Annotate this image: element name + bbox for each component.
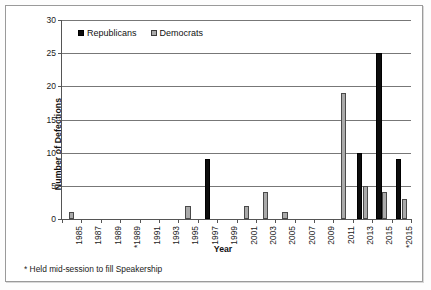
bar-democrats bbox=[263, 192, 268, 219]
chart-footnote: * Held mid-session to fill Speakership bbox=[24, 264, 162, 274]
x-axis-tick bbox=[237, 219, 238, 223]
x-axis-tick bbox=[353, 219, 354, 223]
x-axis-tick-label: 2007 bbox=[308, 226, 316, 245]
x-axis-tick-label: 2009 bbox=[327, 226, 335, 245]
x-axis-tick bbox=[295, 219, 296, 223]
gridline bbox=[62, 20, 411, 21]
y-axis-tick-label: 10 bbox=[47, 148, 56, 157]
x-axis-tick-label: 1987 bbox=[94, 226, 102, 245]
x-axis-tick bbox=[411, 219, 412, 223]
gridline bbox=[62, 86, 411, 87]
x-axis-tick bbox=[217, 219, 218, 223]
bar-democrats bbox=[402, 199, 407, 219]
bar-democrats bbox=[282, 212, 287, 219]
y-axis-tick bbox=[58, 153, 62, 154]
bar-democrats bbox=[244, 206, 249, 219]
x-axis-tick bbox=[140, 219, 141, 223]
gridline bbox=[62, 120, 411, 121]
y-axis-tick-label: 30 bbox=[47, 16, 56, 25]
x-axis-tick-label: 1989 bbox=[114, 226, 122, 245]
x-axis-tick-label: 1995 bbox=[191, 226, 199, 245]
bar-republicans bbox=[205, 159, 210, 219]
x-axis-tick bbox=[62, 219, 63, 223]
x-axis-tick bbox=[198, 219, 199, 223]
bar-republicans bbox=[376, 53, 381, 219]
x-axis-tick bbox=[256, 219, 257, 223]
x-axis-tick-label: 1997 bbox=[211, 226, 219, 245]
x-axis-tick bbox=[178, 219, 179, 223]
x-axis-tick-label: 1991 bbox=[153, 226, 161, 245]
x-axis-tick-label: 2005 bbox=[288, 226, 296, 245]
x-axis-tick bbox=[372, 219, 373, 223]
x-axis-title: Year bbox=[6, 244, 422, 254]
y-axis-tick bbox=[58, 20, 62, 21]
x-axis-tick bbox=[81, 219, 82, 223]
x-axis-tick-label: 2013 bbox=[366, 226, 374, 245]
x-axis-tick-label: 1985 bbox=[75, 226, 83, 245]
x-axis-tick-label: 1993 bbox=[172, 226, 180, 245]
y-axis-tick-label: 25 bbox=[47, 49, 56, 58]
x-axis-tick bbox=[275, 219, 276, 223]
chart-page: Number of Defections Republicans Democra… bbox=[0, 0, 431, 290]
y-axis-tick bbox=[58, 120, 62, 121]
x-axis-tick-label: 2001 bbox=[250, 226, 258, 245]
y-axis-tick-label: 15 bbox=[47, 115, 56, 124]
chart-frame: Number of Defections Republicans Democra… bbox=[5, 5, 423, 282]
y-axis-tick bbox=[58, 86, 62, 87]
y-axis-tick-label: 0 bbox=[51, 215, 56, 224]
x-axis-tick-label: 2003 bbox=[269, 226, 277, 245]
bar-republicans bbox=[396, 159, 401, 219]
y-axis-tick-label: 5 bbox=[51, 182, 56, 191]
bar-democrats bbox=[382, 192, 387, 219]
x-axis-tick-label: 2011 bbox=[347, 226, 355, 244]
bar-republicans bbox=[357, 153, 362, 219]
x-axis-tick bbox=[159, 219, 160, 223]
x-axis-tick bbox=[333, 219, 334, 223]
bar-democrats bbox=[341, 93, 346, 219]
bar-democrats bbox=[363, 186, 368, 219]
y-axis-tick bbox=[58, 53, 62, 54]
bar-democrats bbox=[185, 206, 190, 219]
y-axis-tick bbox=[58, 186, 62, 187]
bar-democrats bbox=[69, 212, 74, 219]
x-axis-tick bbox=[392, 219, 393, 223]
x-axis-tick bbox=[101, 219, 102, 223]
plot-area: 051015202530198519871989*198919911993199… bbox=[61, 20, 411, 220]
x-axis-tick bbox=[120, 219, 121, 223]
gridline bbox=[62, 53, 411, 54]
x-axis-tick-label: 1999 bbox=[230, 226, 238, 245]
y-axis-tick-label: 20 bbox=[47, 82, 56, 91]
x-axis-tick bbox=[314, 219, 315, 223]
x-axis-tick-label: 2015 bbox=[385, 226, 393, 245]
